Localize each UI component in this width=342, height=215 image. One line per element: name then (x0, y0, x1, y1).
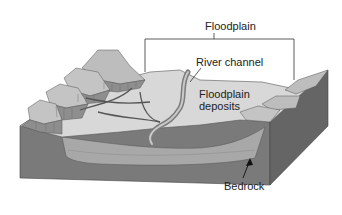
bedrock-label: Bedrock (224, 180, 264, 192)
floodplain-block-diagram (0, 0, 342, 215)
floodplain-deposits-label: Floodplain deposits (199, 88, 259, 112)
floodplain-label: Floodplain (205, 20, 256, 32)
river-channel-label: River channel (196, 56, 263, 68)
